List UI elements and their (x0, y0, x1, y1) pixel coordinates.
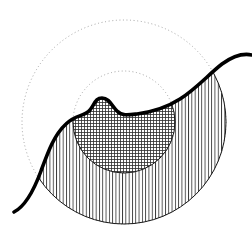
geometric-figure-canvas (0, 0, 252, 237)
figure-container (0, 0, 252, 237)
